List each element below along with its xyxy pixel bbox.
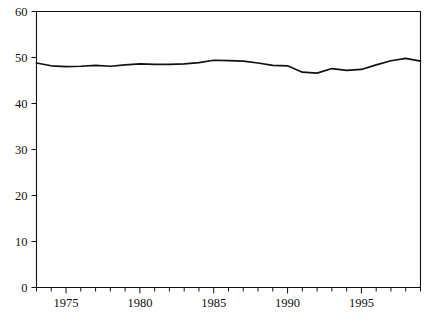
x-axis-tick-labels: 19751980198519901995 bbox=[54, 296, 374, 310]
y-tick-label: 40 bbox=[15, 97, 28, 111]
x-axis-tick-marks bbox=[37, 288, 421, 294]
x-tick-label: 1985 bbox=[201, 296, 226, 310]
chart-figure: 0102030405060 19751980198519901995 bbox=[0, 0, 432, 331]
y-tick-label: 60 bbox=[15, 5, 28, 19]
x-tick-label: 1995 bbox=[349, 296, 374, 310]
x-tick-label: 1980 bbox=[127, 296, 152, 310]
data-series-line bbox=[37, 58, 421, 73]
y-tick-label: 50 bbox=[15, 51, 28, 65]
y-tick-label: 0 bbox=[21, 281, 27, 295]
y-axis-tick-marks bbox=[32, 12, 37, 288]
x-tick-label: 1975 bbox=[54, 296, 79, 310]
axis-frame bbox=[37, 12, 421, 288]
y-tick-label: 20 bbox=[15, 189, 28, 203]
y-tick-label: 30 bbox=[15, 143, 28, 157]
x-tick-label: 1990 bbox=[275, 296, 300, 310]
line-chart: 0102030405060 19751980198519901995 bbox=[0, 0, 432, 331]
y-tick-label: 10 bbox=[15, 235, 28, 249]
y-axis-tick-labels: 0102030405060 bbox=[15, 5, 28, 295]
